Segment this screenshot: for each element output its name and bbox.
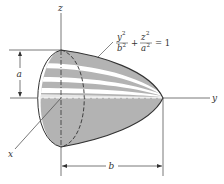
eq-a: a	[141, 43, 146, 53]
diagram-canvas: z y x a b y 2 b 2 + z 2 a 2 = 1	[0, 0, 224, 184]
dimension-b-label: b	[109, 161, 115, 171]
equation-leader-line	[97, 42, 113, 58]
eq-b-exp: 2	[123, 42, 127, 48]
eq-plus: +	[131, 38, 138, 48]
paraboloid-solid	[30, 50, 163, 147]
eq-a-exp: 2	[147, 42, 151, 48]
eq-z-exp: 2	[146, 30, 150, 36]
arrowhead-up-icon	[18, 51, 22, 56]
x-axis-label: x	[8, 149, 13, 159]
equation: y 2 b 2 + z 2 a 2 = 1	[116, 30, 170, 53]
z-axis-label: z	[57, 3, 63, 13]
y-axis-label: y	[211, 93, 218, 103]
arrowhead-left-icon	[62, 164, 67, 168]
eq-y-exp: 2	[122, 30, 126, 36]
dimension-a-label: a	[17, 69, 22, 79]
eq-equals-one: = 1	[155, 38, 170, 48]
arrowhead-down-icon	[18, 92, 22, 97]
arrowhead-right-icon	[157, 164, 162, 168]
